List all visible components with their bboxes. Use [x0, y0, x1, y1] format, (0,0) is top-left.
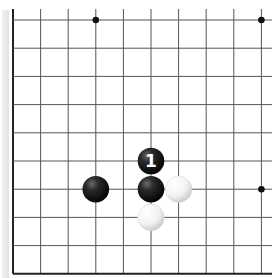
- board-grid: [13, 9, 272, 274]
- white-stone[interactable]: [138, 204, 165, 231]
- go-board[interactable]: 1: [0, 0, 275, 278]
- star-point-icon: [258, 17, 265, 24]
- black-stone[interactable]: 1: [138, 148, 165, 175]
- black-stone[interactable]: [138, 176, 165, 203]
- black-stone[interactable]: [83, 176, 110, 203]
- star-point-icon: [258, 186, 265, 193]
- white-stone[interactable]: [165, 176, 192, 203]
- move-number-label: 1: [145, 151, 157, 171]
- star-point-icon: [93, 17, 100, 24]
